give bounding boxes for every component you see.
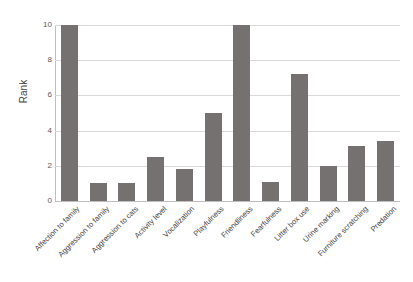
bar: [147, 157, 164, 201]
bar: [90, 183, 107, 201]
bar: [262, 182, 279, 201]
bar: [205, 113, 222, 201]
y-axis-tick-label: 2: [6, 162, 52, 170]
bar: [176, 169, 193, 201]
bar-chart: Rank 0246810 Affection to familyAggressi…: [0, 0, 413, 282]
bar: [320, 166, 337, 201]
bar: [118, 183, 135, 201]
bar: [61, 25, 78, 201]
bar: [348, 146, 365, 201]
y-axis-tick-label: 8: [6, 56, 52, 64]
bar: [377, 141, 394, 201]
bar: [291, 74, 308, 201]
bars-layer: [55, 25, 400, 201]
x-axis-tick-labels: Affection to familyAggression to familyA…: [0, 202, 413, 282]
y-axis-tick-label: 10: [6, 21, 52, 29]
bar: [233, 25, 250, 201]
y-axis-tick-label: 6: [6, 91, 52, 99]
y-axis-tick-label: 4: [6, 127, 52, 135]
plot-area: [55, 25, 400, 201]
x-axis-tick-label: Predation: [369, 205, 398, 234]
